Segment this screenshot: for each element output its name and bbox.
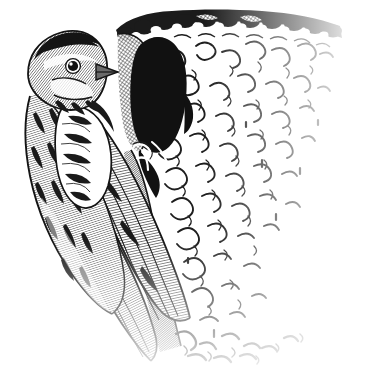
bird-nest-illustration [0, 0, 366, 387]
bottom-edge-fade [0, 0, 366, 387]
illustration-canvas: Pen-and-ink illustration of a streaked s… [0, 0, 366, 387]
